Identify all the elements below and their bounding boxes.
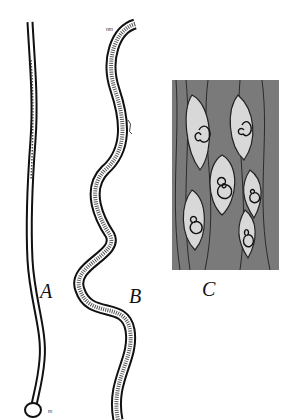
panel-label-c: C bbox=[202, 278, 215, 301]
panel-label-b: B bbox=[129, 285, 141, 308]
annotation-a-tail: m bbox=[48, 408, 52, 414]
worm-b bbox=[79, 24, 135, 420]
nematode-illustration bbox=[0, 0, 291, 420]
worm-a bbox=[25, 22, 42, 417]
muscle-tissue-panel bbox=[172, 80, 279, 270]
annotation-b-head: nm bbox=[106, 26, 113, 32]
panel-label-a: A bbox=[40, 280, 52, 303]
